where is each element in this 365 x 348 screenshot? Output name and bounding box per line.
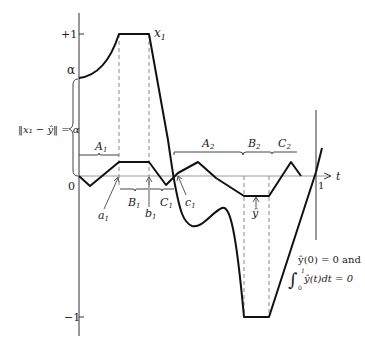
condition-integral: ŷ(t)dt = 0 [303, 273, 354, 284]
label-alpha: α [67, 63, 75, 77]
t-axis-label: t [336, 170, 341, 183]
b1-c1-interval-bracket [120, 189, 174, 191]
a1-interval-label: A1 [94, 140, 107, 154]
y-hat-arrow-icon [253, 197, 259, 207]
label-zero: 0 [68, 180, 75, 193]
c1-interval-label: C1 [160, 196, 173, 210]
a2-b2-c2-interval-bracket [174, 152, 297, 155]
label-plus-one: +1 [61, 28, 77, 41]
c2-interval-label: C2 [278, 137, 291, 151]
integral-lower-limit: 0 [298, 284, 302, 291]
a1-label: a1 [98, 209, 109, 223]
b2-interval-label: B2 [247, 137, 261, 151]
b1-interval-label: B1 [127, 196, 141, 210]
c1-label: c1 [185, 196, 196, 210]
t-tick-one-label: 1 [318, 180, 324, 191]
integral-sign: ∫ [288, 269, 298, 290]
norm-label: ‖x₁ − ŷ‖ = α [18, 124, 80, 136]
x1-label: x1 [154, 26, 166, 42]
c1-arrow-icon [177, 176, 186, 195]
b1-label: b1 [145, 207, 157, 221]
label-minus-one: −1 [64, 311, 80, 324]
y-hat-label: ŷ [251, 207, 259, 220]
approximation-diagram: +1 α 0 −1 ‖x₁ − ŷ‖ = α x1 A1 B1 C1 A2 B2… [0, 0, 365, 348]
b1-arrow-icon [146, 177, 152, 207]
condition-initial: ŷ(0) = 0 and [297, 254, 361, 265]
a1-arrow-icon [104, 177, 119, 209]
a2-interval-label: A2 [201, 137, 215, 151]
a1-interval-bracket [79, 153, 119, 155]
